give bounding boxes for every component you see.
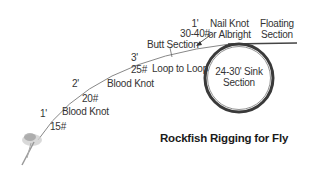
tippet-length: 1' [40,108,47,119]
blood-knot-1: Blood Knot [107,78,154,89]
second-length: 2' [72,78,79,89]
floating-label-2: Section [261,29,293,40]
tippet-weight: 15# [50,121,66,132]
butt-name: Butt Section [147,39,199,50]
fly-icon [22,133,42,165]
blood-knot-2: Blood Knot [62,106,109,117]
nail-knot-label: Nail Knot [210,18,249,29]
diagram-title: Rockfish Rigging for Fly [160,132,288,144]
loop-to-loop-label: Loop to Loop [152,63,208,74]
second-weight: 20# [82,93,98,104]
mid-length: 3' [131,52,138,63]
mid-weight: 25# [131,64,147,75]
floating-label-1: Floating [260,18,294,29]
sink-label-1: 24-30' Sink [207,66,271,77]
albright-label: or Albright [208,29,251,40]
sink-label-2: Section [207,77,271,88]
